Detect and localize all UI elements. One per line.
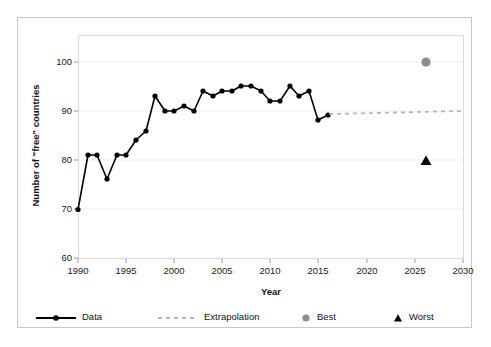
legend-label-data: Data [82,311,102,322]
data-point-2009 [258,88,263,93]
data-point-1990 [75,207,80,212]
legend-label-worst: Worst [409,311,434,322]
data-point-2005 [219,88,224,93]
data-point-2011 [277,98,282,103]
chart-legend: Data Extrapolation Best [17,304,472,330]
data-point-1996 [133,137,138,142]
data-point-2008 [248,83,253,88]
chart-canvas [0,0,491,347]
best-marker-point [421,57,430,66]
legend-filled-circle-icon [300,310,312,322]
data-point-1998 [152,93,157,98]
legend-item-worst: Worst [392,306,434,326]
data-point-2003 [200,88,205,93]
data-point-2013 [296,93,301,98]
data-point-1992 [94,152,99,157]
data-point-1994 [114,152,119,157]
chart-figure: 100 90 80 70 60 1990 1995 2000 2005 2010… [0,0,491,347]
data-point-2006 [229,88,234,93]
data-point-1997 [143,128,148,133]
legend-filled-triangle-icon [392,310,404,322]
data-point-2001 [181,103,186,108]
data-point-2002 [191,108,196,113]
data-point-2000 [171,108,176,113]
data-point-2004 [210,93,215,98]
data-series-markers [75,83,330,212]
data-point-2014 [306,88,311,93]
legend-line-with-dot-icon [35,310,77,322]
gridlines [79,62,463,209]
tick-marks [74,62,463,263]
data-point-1991 [85,152,90,157]
legend-label-best: Best [317,311,336,322]
data-series-line [78,86,328,210]
data-point-1993 [104,176,109,181]
legend-label-extrapolation: Extrapolation [204,311,259,322]
legend-dashed-line-icon [157,310,199,322]
data-point-2010 [267,98,272,103]
data-point-1995 [123,152,128,157]
data-point-1999 [162,108,167,113]
data-point-2015 [315,117,320,122]
legend-item-data: Data [35,306,102,326]
data-point-2012 [287,83,292,88]
legend-item-extrapolation: Extrapolation [157,306,259,326]
legend-item-best: Best [300,306,336,326]
data-point-2007 [238,83,243,88]
